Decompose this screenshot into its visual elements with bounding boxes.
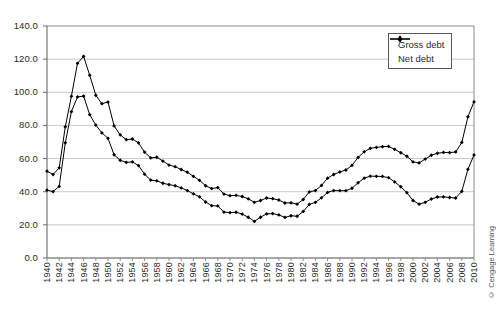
x-axis-tick-label: 1974 bbox=[249, 262, 259, 283]
data-point-marker bbox=[45, 169, 49, 173]
x-axis-tick-label: 2010 bbox=[469, 262, 479, 283]
x-axis-tick-label: 1978 bbox=[274, 262, 284, 283]
data-point-marker bbox=[155, 179, 159, 183]
x-axis-tick-label: 1982 bbox=[298, 262, 308, 283]
x-axis-tick-label: 1972 bbox=[237, 262, 247, 283]
data-point-marker bbox=[271, 212, 275, 216]
x-axis-tick-label: 2000 bbox=[408, 262, 418, 283]
legend-marker-diamond-icon bbox=[389, 34, 411, 44]
data-point-marker bbox=[240, 212, 244, 216]
data-point-marker bbox=[234, 210, 238, 214]
x-axis-tick-label: 1992 bbox=[359, 262, 369, 283]
data-point-marker bbox=[88, 73, 92, 77]
chart-figure: 0.020.040.060.080.0100.0120.0140.0 19401… bbox=[0, 0, 502, 319]
x-axis-tick-label: 1950 bbox=[103, 262, 113, 283]
y-axis-tick-label: 60.0 bbox=[0, 153, 38, 164]
data-point-marker bbox=[228, 194, 232, 198]
data-point-marker bbox=[167, 183, 171, 187]
x-axis-tick-label: 1954 bbox=[127, 262, 137, 283]
data-point-marker bbox=[76, 95, 80, 99]
data-point-marker bbox=[265, 212, 269, 216]
data-point-marker bbox=[375, 174, 379, 178]
data-point-marker bbox=[423, 200, 427, 204]
x-axis-tick-label: 1962 bbox=[176, 262, 186, 283]
data-point-marker bbox=[289, 201, 293, 205]
x-axis-tick-label: 1944 bbox=[66, 262, 76, 283]
data-point-marker bbox=[442, 151, 446, 155]
x-axis-tick-label: 1968 bbox=[213, 262, 223, 283]
data-point-marker bbox=[234, 193, 238, 197]
chart-legend: Gross debt Net debt bbox=[388, 33, 452, 69]
legend-item-net-debt: Net debt bbox=[394, 51, 444, 65]
data-point-marker bbox=[338, 170, 342, 174]
data-point-marker bbox=[429, 197, 433, 201]
data-point-marker bbox=[192, 192, 196, 196]
data-point-marker bbox=[472, 153, 476, 157]
data-point-marker bbox=[466, 115, 470, 119]
series-line bbox=[47, 56, 474, 204]
data-point-marker bbox=[381, 175, 385, 179]
y-axis-tick-label: 100.0 bbox=[0, 86, 38, 97]
x-axis-tick-label: 1964 bbox=[188, 262, 198, 283]
x-axis-tick-label: 1948 bbox=[91, 262, 101, 283]
x-axis-tick-label: 1998 bbox=[396, 262, 406, 283]
data-point-marker bbox=[173, 184, 177, 188]
data-point-marker bbox=[259, 199, 263, 203]
data-point-marker bbox=[283, 216, 287, 220]
data-point-marker bbox=[277, 198, 281, 202]
data-point-marker bbox=[63, 141, 67, 145]
data-point-marker bbox=[240, 195, 244, 199]
x-axis-tick-label: 1976 bbox=[262, 262, 272, 283]
y-axis-tick-label: 40.0 bbox=[0, 186, 38, 197]
data-point-marker bbox=[210, 187, 214, 191]
x-axis-tick-label: 1994 bbox=[371, 262, 381, 283]
y-axis-tick-label: 20.0 bbox=[0, 219, 38, 230]
x-axis-tick-label: 1986 bbox=[323, 262, 333, 283]
x-axis-tick-label: 1980 bbox=[286, 262, 296, 283]
x-axis-tick-label: 1984 bbox=[310, 262, 320, 283]
data-point-marker bbox=[381, 145, 385, 149]
x-axis-tick-label: 2008 bbox=[457, 262, 467, 283]
series-gross-debt bbox=[45, 54, 476, 206]
x-axis-tick-label: 1988 bbox=[335, 262, 345, 283]
x-axis-tick-label: 1956 bbox=[140, 262, 150, 283]
data-point-marker bbox=[106, 100, 110, 104]
data-point-marker bbox=[82, 94, 86, 98]
data-point-marker bbox=[179, 168, 183, 172]
x-axis-tick-label: 1960 bbox=[164, 262, 174, 283]
data-point-marker bbox=[472, 100, 476, 104]
data-point-marker bbox=[70, 94, 74, 98]
x-axis-tick-label: 2002 bbox=[420, 262, 430, 283]
y-axis-tick-label: 120.0 bbox=[0, 53, 38, 64]
data-point-marker bbox=[124, 160, 128, 164]
x-axis-tick-label: 1952 bbox=[115, 262, 125, 283]
data-point-marker bbox=[375, 146, 379, 150]
x-axis-tick-label: 1970 bbox=[225, 262, 235, 283]
data-point-marker bbox=[368, 174, 372, 178]
data-point-marker bbox=[271, 197, 275, 201]
data-point-marker bbox=[70, 110, 74, 114]
x-axis-tick-label: 2006 bbox=[445, 262, 455, 283]
x-axis-tick-label: 1996 bbox=[384, 262, 394, 283]
data-point-marker bbox=[448, 151, 452, 155]
data-point-marker bbox=[179, 186, 183, 190]
data-point-marker bbox=[436, 151, 440, 155]
x-axis-tick-label: 1958 bbox=[152, 262, 162, 283]
x-axis-tick-label: 1966 bbox=[201, 262, 211, 283]
data-point-marker bbox=[161, 181, 165, 185]
x-axis-tick-label: 1990 bbox=[347, 262, 357, 283]
y-axis-tick-label: 0.0 bbox=[0, 252, 38, 263]
data-point-marker bbox=[387, 145, 391, 149]
data-point-marker bbox=[442, 195, 446, 199]
x-axis-tick-label: 1942 bbox=[54, 262, 64, 283]
data-point-marker bbox=[436, 195, 440, 199]
y-axis-tick-label: 140.0 bbox=[0, 20, 38, 31]
copyright-credit: © Cengage Learning bbox=[487, 226, 496, 299]
data-point-marker bbox=[277, 213, 281, 217]
data-point-marker bbox=[289, 214, 293, 218]
y-axis-tick-label: 80.0 bbox=[0, 119, 38, 130]
data-point-marker bbox=[466, 167, 470, 171]
data-point-marker bbox=[265, 196, 269, 200]
data-point-marker bbox=[448, 196, 452, 200]
data-point-marker bbox=[228, 211, 232, 215]
